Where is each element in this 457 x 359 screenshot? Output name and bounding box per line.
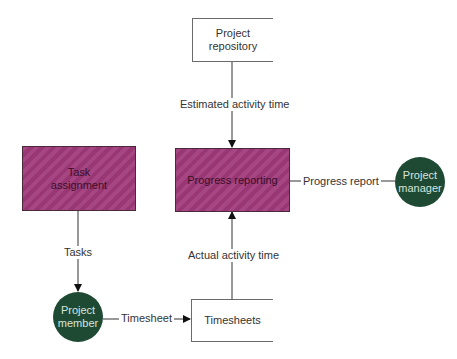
flow-label-progress-report: Progress report [301, 175, 381, 188]
progress-reporting-label: Progress reporting [187, 174, 278, 187]
project-repository-label-line1: Project [209, 27, 257, 40]
process-task-assignment[interactable]: Task assignment [22, 146, 136, 211]
task-assignment-label-line2: assignment [51, 179, 107, 192]
task-assignment-label-line1: Task [51, 166, 107, 179]
entity-project-member[interactable]: Project member [53, 292, 103, 342]
project-repository-label-line2: repository [209, 40, 257, 53]
flow-label-actual-activity-time: Actual activity time [186, 249, 281, 262]
data-store-project-repository[interactable]: Project repository [192, 18, 273, 62]
timesheets-label: Timesheets [204, 314, 260, 327]
project-member-label-line2: member [58, 317, 98, 330]
project-manager-label-line1: Project [398, 169, 441, 182]
flow-label-estimated-activity-time: Estimated activity time [178, 98, 291, 111]
project-manager-label-line2: manager [398, 182, 441, 195]
flow-label-tasks: Tasks [62, 246, 94, 259]
data-store-timesheets[interactable]: Timesheets [191, 299, 273, 342]
entity-project-manager[interactable]: Project manager [395, 157, 445, 207]
project-member-label-line1: Project [58, 304, 98, 317]
flow-label-timesheet: Timesheet [119, 312, 174, 325]
process-progress-reporting[interactable]: Progress reporting [175, 148, 290, 212]
